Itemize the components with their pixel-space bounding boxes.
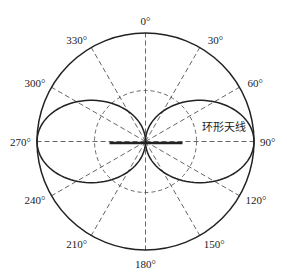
pattern-label: 环形天线 [202,120,246,134]
spoke-330 [91,48,145,142]
polar-radiation-diagram: 0°30°60°90°120°150°180°210°240°270°300°3… [0,0,287,274]
angle-label-60: 60° [248,77,263,89]
angle-label-210: 210° [66,238,87,250]
angle-label-30: 30° [208,34,223,46]
angle-label-300: 300° [25,77,46,89]
spoke-150 [146,142,200,236]
angle-label-90: 90° [260,136,275,148]
angle-label-120: 120° [246,194,267,206]
angle-label-0: 0° [141,15,151,27]
angle-label-270: 270° [10,136,31,148]
angle-label-330: 330° [66,34,87,46]
angle-label-150: 150° [204,238,225,250]
spoke-30 [146,48,200,142]
angle-label-240: 240° [25,194,46,206]
spoke-210 [91,142,145,236]
angle-label-180: 180° [135,258,156,270]
